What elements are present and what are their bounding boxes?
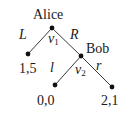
payoff-Rl: 0,0 bbox=[37, 93, 55, 108]
player-label-alice: Alice bbox=[33, 7, 63, 22]
node-alice bbox=[50, 26, 55, 31]
action-label-R: R bbox=[69, 27, 79, 42]
action-label-l: l bbox=[50, 60, 54, 75]
leaf-L bbox=[26, 52, 31, 57]
node-bob bbox=[79, 54, 84, 59]
game-tree-diagram: Alice Bob L R l r ν1 ν2 1,5 0,0 2,1 bbox=[0, 0, 123, 115]
payoff-L: 1,5 bbox=[19, 61, 37, 76]
node-name-v2-sub: 2 bbox=[81, 68, 86, 78]
action-label-L: L bbox=[18, 27, 27, 42]
payoff-Rr: 2,1 bbox=[101, 93, 119, 108]
node-name-v1-sub: 1 bbox=[54, 37, 59, 47]
leaf-Rl bbox=[53, 83, 58, 88]
player-label-bob: Bob bbox=[86, 41, 109, 56]
action-label-r: r bbox=[96, 58, 102, 73]
node-name-v2: ν2 bbox=[75, 62, 86, 78]
leaf-Rr bbox=[110, 85, 115, 90]
